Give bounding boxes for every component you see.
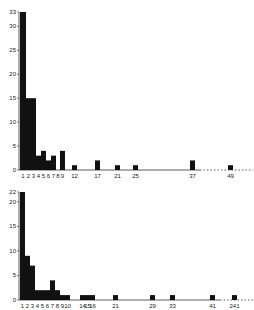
x-tick-label: 49 — [227, 173, 234, 179]
x-tick-label: 9 — [61, 173, 65, 179]
x-tick-label: 2 — [26, 303, 30, 309]
histogram-bar — [210, 295, 215, 300]
x-tick-label: 37 — [189, 173, 196, 179]
histogram-bar — [20, 12, 26, 170]
x-tick-label: 1 — [21, 303, 25, 309]
y-tick-label: 22 — [9, 189, 16, 195]
x-tick-label: 10 — [64, 303, 71, 309]
histogram-bar — [31, 98, 36, 170]
x-tick-label: 4 — [36, 303, 40, 309]
x-tick-label: 3 — [31, 303, 35, 309]
x-tick-label: 8 — [56, 173, 60, 179]
x-tick-label: 25 — [132, 173, 139, 179]
x-tick-label: 1 — [21, 173, 25, 179]
histogram-bar — [228, 165, 233, 170]
histogram-bar — [60, 295, 65, 300]
histogram-top-plot: 05101520253033123456789121721253749 — [0, 0, 254, 180]
y-tick-label: 30 — [9, 23, 16, 29]
x-tick-label: 6 — [47, 173, 51, 179]
histogram-bottom-plot: 05101520221234567891014151621293341241 — [0, 180, 254, 310]
x-tick-label: 12 — [71, 173, 78, 179]
x-tick-label: 21 — [114, 173, 121, 179]
histogram-bottom: 05101520221234567891014151621293341241 — [0, 180, 254, 310]
histogram-bar — [95, 160, 100, 170]
y-tick-label: 5 — [13, 272, 17, 278]
x-tick-label: 8 — [56, 303, 60, 309]
histogram-bar — [36, 156, 41, 170]
y-tick-label: 10 — [9, 119, 16, 125]
histogram-bar — [170, 295, 175, 300]
y-tick-label: 15 — [9, 95, 16, 101]
y-tick-label: 5 — [13, 143, 17, 149]
histogram-bar — [45, 290, 50, 300]
x-tick-label: 41 — [209, 303, 216, 309]
x-tick-label: 7 — [51, 303, 55, 309]
x-tick-label: 6 — [46, 303, 50, 309]
histogram-bar — [232, 295, 237, 300]
histogram-bar — [26, 98, 31, 170]
histogram-bar — [85, 295, 90, 300]
histogram-bar — [150, 295, 155, 300]
histogram-bar — [41, 151, 46, 170]
x-tick-label: 21 — [112, 303, 119, 309]
histogram-bar — [60, 151, 65, 170]
x-tick-label: 29 — [149, 303, 156, 309]
x-tick-label: 5 — [41, 303, 45, 309]
histogram-bar — [50, 280, 55, 300]
x-tick-label: 3 — [32, 173, 36, 179]
y-tick-label: 0 — [13, 167, 17, 173]
y-tick-label: 10 — [9, 248, 16, 254]
x-tick-label: 16 — [89, 303, 96, 309]
histogram-bar — [90, 295, 95, 300]
x-tick-label: 7 — [52, 173, 56, 179]
histogram-bar — [25, 256, 30, 300]
x-tick-label: 4 — [37, 173, 41, 179]
histogram-bar — [72, 165, 77, 170]
histogram-bar — [115, 165, 120, 170]
y-tick-label: 0 — [13, 297, 17, 303]
histogram-bar — [190, 160, 195, 170]
y-tick-label: 33 — [9, 9, 16, 15]
histogram-top: 05101520253033123456789121721253749 — [0, 0, 254, 180]
x-tick-label: 17 — [94, 173, 101, 179]
x-tick-label: 33 — [169, 303, 176, 309]
x-tick-label: 2 — [27, 173, 31, 179]
histogram-bar — [46, 160, 51, 170]
x-tick-label: 241 — [229, 303, 240, 309]
y-tick-label: 20 — [9, 199, 16, 205]
histogram-bar — [55, 290, 60, 300]
histogram-bar — [35, 290, 40, 300]
histogram-bar — [113, 295, 118, 300]
x-tick-label: 5 — [42, 173, 46, 179]
histogram-bar — [133, 165, 138, 170]
y-tick-label: 25 — [9, 47, 16, 53]
histogram-bar — [30, 266, 35, 300]
histogram-bar — [80, 295, 85, 300]
histogram-bar — [20, 192, 25, 300]
histogram-bar — [65, 295, 70, 300]
y-tick-label: 15 — [9, 223, 16, 229]
histogram-bar — [40, 290, 45, 300]
histogram-bar — [51, 156, 56, 170]
y-tick-label: 20 — [9, 71, 16, 77]
